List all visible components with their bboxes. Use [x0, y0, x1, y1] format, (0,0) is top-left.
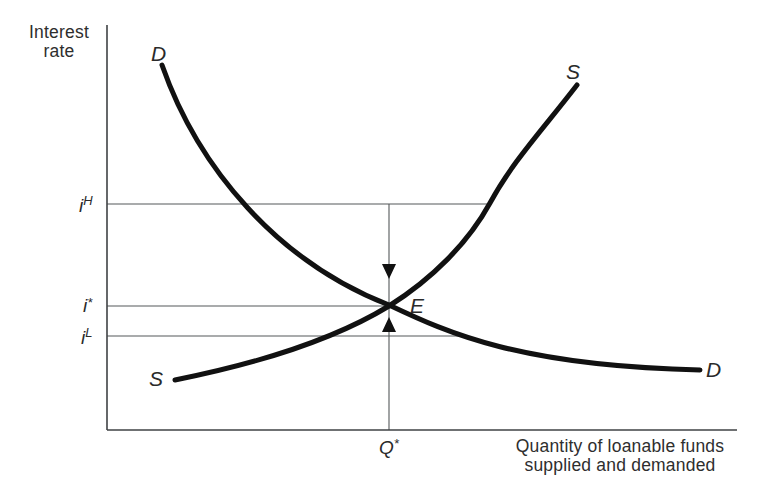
equilibrium-rate-label-sup: *: [87, 295, 93, 310]
x-axis-title-line1: Quantity of loanable funds: [516, 436, 725, 456]
supply-label-top: S: [566, 60, 580, 83]
demand-label-right: D: [706, 358, 721, 381]
equilibrium-quantity-label: Q*: [379, 436, 400, 458]
equilibrium-point-label: E: [410, 294, 425, 317]
x-axis-title-line2: supplied and demanded: [524, 455, 715, 475]
upward-pressure-arrow-icon: [382, 317, 396, 332]
low-rate-label: iL: [81, 325, 92, 348]
supply-label-bottom: S: [149, 367, 163, 390]
loanable-funds-diagram: Interest rate Quantity of loanable funds…: [0, 0, 772, 500]
demand-curve: [162, 65, 700, 370]
diagram-svg: Interest rate Quantity of loanable funds…: [0, 0, 772, 500]
high-rate-label: iH: [79, 193, 93, 216]
high-rate-label-sup: H: [83, 193, 93, 208]
equilibrium-quantity-label-base: Q: [379, 437, 394, 458]
low-rate-label-sup: L: [85, 325, 92, 340]
equilibrium-rate-label: i*: [83, 295, 93, 316]
y-axis-title-line1: Interest: [29, 22, 89, 42]
demand-label-top: D: [151, 42, 166, 65]
y-axis-title-line2: rate: [44, 41, 75, 61]
downward-pressure-arrow-icon: [382, 264, 396, 279]
equilibrium-quantity-label-sup: *: [394, 436, 400, 451]
